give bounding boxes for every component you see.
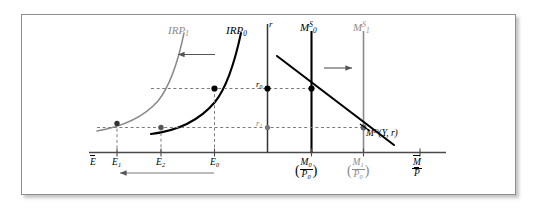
exchange-axis-label: E: [90, 158, 96, 168]
rate-initial-label: r0: [256, 80, 262, 90]
rate-final-label: r1: [256, 119, 262, 129]
tick-label-m1-over-p0: (M1P0): [347, 158, 369, 180]
point-irp1-e1-r1: [114, 121, 119, 126]
irp1-curve: [97, 33, 184, 131]
irp1-label: IRP1: [168, 25, 189, 38]
tick-label-e0: E0: [210, 158, 219, 168]
figure-root: IRP1 IRP0 r MS0 MS1 r0 r1 MD(Y, r) E E1 …: [0, 0, 539, 211]
money-supply-shifted-label: MS1: [353, 22, 370, 35]
figure-drawing: [0, 0, 539, 211]
interest-rate-axis-label: r: [269, 20, 273, 29]
irp0-curve: [151, 33, 241, 134]
irp0-label: IRP0: [226, 25, 247, 38]
tick-label-e1: E1: [112, 158, 121, 168]
tick-label-e2: E2: [156, 158, 165, 168]
point-money-eq-initial: [308, 85, 314, 91]
point-raxis-r0: [264, 85, 270, 91]
money-demand-label: MD(Y, r): [366, 128, 398, 139]
point-raxis-r1: [265, 125, 270, 130]
money-axis-label: MP: [412, 158, 422, 179]
point-irp0-e0-r0: [211, 85, 217, 91]
tick-label-m0-over-p0: (M0P0): [295, 158, 317, 180]
money-supply-initial-label: MS0: [300, 22, 317, 35]
point-irp0-e2-r1: [158, 125, 163, 130]
